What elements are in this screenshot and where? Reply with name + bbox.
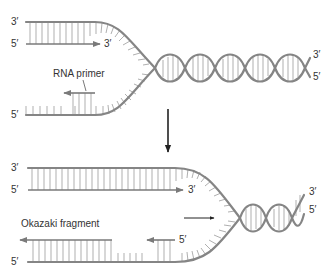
bottom-helix-5prime-label: 5′ (309, 204, 317, 215)
okazaki-fragment-label: Okazaki fragment (21, 218, 100, 229)
top-upper-3prime-label: 3′ (11, 16, 19, 27)
top-upper-parental-strand (26, 22, 155, 68)
top-lower-5prime-label: 5′ (11, 109, 19, 120)
replication-fork-diagram: 3′ 5′ 3′ RNA primer 5′ 3′ 5′ (0, 0, 334, 279)
top-panel: 3′ 5′ 3′ RNA primer 5′ 3′ 5′ (11, 16, 321, 120)
bottom-panel: 3′ 5′ 3′ Okazaki fragment 5′ 5′ 3′ 5′ (11, 162, 317, 267)
top-double-helix (155, 55, 310, 82)
top-helix-5prime-label: 5′ (313, 71, 321, 82)
bottom-leading-3prime-end-label: 3′ (188, 184, 196, 195)
rna-primer-label: RNA primer (53, 68, 105, 79)
top-helix-3prime-label: 3′ (313, 49, 321, 60)
bottom-leading-5prime-label: 5′ (11, 184, 19, 195)
bottom-double-helix (240, 195, 304, 232)
top-leading-3prime-end-label: 3′ (104, 38, 112, 49)
new-fragment-5prime-label: 5′ (179, 234, 187, 245)
top-leading-5prime-label: 5′ (11, 38, 19, 49)
bottom-lower-5prime-label: 5′ (11, 256, 19, 267)
bottom-upper-3prime-label: 3′ (11, 162, 19, 173)
bottom-helix-3prime-label: 3′ (309, 186, 317, 197)
rna-primer-pointer (83, 80, 86, 91)
